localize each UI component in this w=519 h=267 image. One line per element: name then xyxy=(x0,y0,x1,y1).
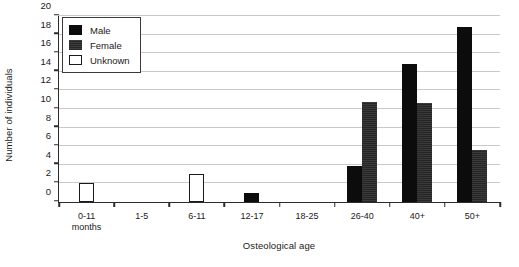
x-tick-mark xyxy=(389,202,391,207)
bar-male xyxy=(347,166,362,202)
x-tick-label-line: 40+ xyxy=(410,211,425,222)
y-gridline xyxy=(59,108,500,109)
x-tick-label-line: 12-17 xyxy=(240,211,263,222)
x-tick-label-line: months xyxy=(72,222,102,233)
y-tick-label: 0 xyxy=(46,186,51,197)
y-axis-title: Number of individuals xyxy=(0,10,18,220)
bar-chart: Number of individuals 024681012141618200… xyxy=(0,0,519,267)
y-tick-label: 14 xyxy=(40,55,51,66)
y-tick-mark xyxy=(54,144,59,146)
legend-item-male[interactable]: Male xyxy=(69,23,130,37)
y-tick-mark xyxy=(54,32,59,34)
x-tick-label-line: 1-5 xyxy=(135,211,148,222)
bar-female xyxy=(417,103,432,202)
legend-label: Male xyxy=(90,25,111,36)
legend-item-female[interactable]: Female xyxy=(69,38,130,52)
y-tick-label: 18 xyxy=(40,18,51,29)
y-tick-label: 8 xyxy=(46,111,51,122)
x-tick-mark xyxy=(279,202,281,207)
x-tick-label: 50+ xyxy=(465,211,480,222)
y-tick-label: 12 xyxy=(40,74,51,85)
x-tick-mark xyxy=(499,202,501,207)
x-tick-mark xyxy=(224,202,226,207)
legend-swatch-unknown-icon xyxy=(69,55,82,65)
x-tick-label: 12-17 xyxy=(240,211,263,222)
x-tick-mark xyxy=(334,202,336,207)
y-tick-mark xyxy=(54,14,59,16)
x-tick-mark xyxy=(58,202,60,207)
legend-swatch-female-icon xyxy=(69,40,82,50)
legend-label: Female xyxy=(90,40,122,51)
y-tick-mark xyxy=(54,125,59,127)
y-gridline xyxy=(59,127,500,128)
x-tick-label: 1-5 xyxy=(135,211,148,222)
y-tick-label: 4 xyxy=(46,148,51,159)
x-tick-label-line: 6-11 xyxy=(188,211,205,222)
x-tick-label-line: 0-11 xyxy=(72,211,102,222)
y-tick-label: 2 xyxy=(46,167,51,178)
y-tick-mark xyxy=(54,181,59,183)
y-tick-mark xyxy=(54,51,59,53)
x-tick-label: 6-11 xyxy=(188,211,205,222)
y-tick-label: 6 xyxy=(46,130,51,141)
bar-male xyxy=(457,27,472,202)
y-gridline xyxy=(59,15,500,16)
y-gridline xyxy=(59,182,500,183)
bar-male xyxy=(244,193,259,202)
bar-unknown xyxy=(189,174,204,202)
x-tick-label-line: 18-25 xyxy=(296,211,319,222)
x-tick-label: 0-11months xyxy=(72,211,102,232)
y-tick-label: 16 xyxy=(40,37,51,48)
legend-swatch-male-icon xyxy=(69,25,82,35)
y-tick-mark xyxy=(54,163,59,165)
x-tick-mark xyxy=(169,202,171,207)
x-tick-label-line: 50+ xyxy=(465,211,480,222)
y-tick-mark xyxy=(54,70,59,72)
chart-legend: MaleFemaleUnknown xyxy=(62,17,141,73)
x-tick-label-line: 26-40 xyxy=(351,211,374,222)
y-gridline xyxy=(59,89,500,90)
x-tick-mark xyxy=(113,202,115,207)
bar-female xyxy=(472,150,487,202)
legend-item-unknown[interactable]: Unknown xyxy=(69,53,130,67)
bar-unknown xyxy=(79,183,94,202)
y-tick-mark xyxy=(54,107,59,109)
y-gridline xyxy=(59,145,500,146)
x-tick-label: 40+ xyxy=(410,211,425,222)
bar-female xyxy=(362,102,377,202)
bar-male xyxy=(402,64,417,202)
x-tick-mark xyxy=(444,202,446,207)
y-tick-label: 20 xyxy=(40,0,51,11)
x-axis-title: Osteological age xyxy=(58,240,500,251)
x-tick-label: 18-25 xyxy=(296,211,319,222)
x-tick-label: 26-40 xyxy=(351,211,374,222)
y-gridline xyxy=(59,164,500,165)
y-tick-label: 10 xyxy=(40,93,51,104)
y-tick-mark xyxy=(54,88,59,90)
legend-label: Unknown xyxy=(90,55,130,66)
